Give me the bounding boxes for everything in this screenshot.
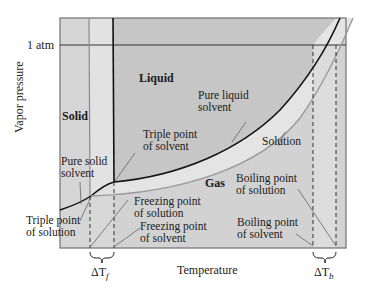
label-freezing-solvent-2: of solvent: [140, 232, 186, 244]
boiling-elevation-band: [313, 45, 336, 248]
label-freezing-solution-2: of solution: [134, 207, 184, 219]
x-axis-label: Temperature: [177, 264, 237, 276]
delta-tf-label: ΔTf: [91, 265, 109, 281]
delta-tb-label: ΔTb: [314, 265, 334, 281]
region-liquid-label: Liquid: [139, 72, 174, 84]
label-pure-solid-2: solvent: [61, 167, 94, 179]
brace-freezing: [90, 252, 114, 263]
region-gas-label: Gas: [205, 177, 225, 189]
region-solid-label: Solid: [62, 110, 88, 122]
label-boiling-solution-2: of solution: [236, 184, 286, 196]
y-axis-label: Vapor pressure: [12, 61, 27, 133]
label-triple-solution-2: of solution: [26, 226, 76, 238]
label-pure-liquid-2: solvent: [198, 101, 231, 113]
freezing-band-lower: [89, 196, 113, 248]
phase-diagram: [0, 0, 378, 290]
y-tick-1atm: 1 atm: [27, 39, 54, 51]
label-boiling-solution-1: Boiling point: [236, 172, 297, 184]
solvent-freezing-line: [113, 18, 114, 182]
label-boiling-solvent-2: of solvent: [237, 228, 283, 240]
label-freezing-solvent-1: Freezing point: [140, 220, 207, 232]
label-pure-solid-1: Pure solid: [61, 155, 107, 167]
label-solution: Solution: [262, 135, 301, 147]
label-triple-solvent-2: of solvent: [143, 140, 189, 152]
label-pure-liquid-1: Pure liquid: [198, 89, 249, 101]
label-freezing-solution-1: Freezing point: [134, 195, 201, 207]
label-triple-solution-1: Triple point: [26, 214, 80, 226]
brace-boiling: [313, 252, 336, 263]
label-boiling-solvent-1: Boiling point: [237, 216, 298, 228]
label-triple-solvent-1: Triple point: [143, 128, 197, 140]
